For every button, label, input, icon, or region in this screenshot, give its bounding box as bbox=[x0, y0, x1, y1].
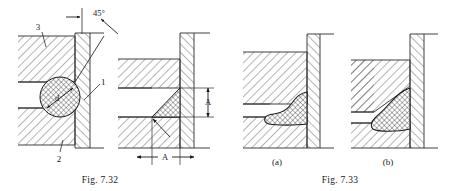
figure-canvas: d 45° 3 1 2 bbox=[0, 0, 450, 191]
label-dimension-A-horizontal-text: A bbox=[162, 152, 169, 162]
fig-7-33-panel-a bbox=[243, 34, 334, 148]
fig-7-33-panel-b bbox=[351, 34, 438, 148]
sublabel-fig-7-33-a: (a) bbox=[272, 157, 282, 167]
label-angle-45: 45° bbox=[93, 8, 105, 18]
label-part-1: 1 bbox=[101, 77, 106, 87]
mating-plate-a bbox=[307, 34, 334, 148]
upper-body-section-2 bbox=[118, 59, 180, 88]
sealing-ring-section bbox=[40, 77, 80, 117]
fig-7-32-panel-ring: d 45° 3 1 2 bbox=[18, 8, 118, 164]
label-part-2: 2 bbox=[57, 154, 62, 164]
mating-plate-section-2 bbox=[180, 33, 210, 148]
fig-7-32-panel-triangle: A A A bbox=[118, 33, 214, 165]
technical-figure-sheet: d 45° 3 1 2 bbox=[0, 0, 450, 191]
label-part-3: 3 bbox=[36, 22, 41, 32]
angle-45-callout bbox=[66, 8, 118, 34]
triangular-filler-section bbox=[152, 88, 180, 117]
sublabel-fig-7-33-b: (b) bbox=[383, 157, 394, 167]
caption-fig-7-33: Fig. 7.33 bbox=[322, 175, 359, 185]
lower-body-section-2 bbox=[118, 117, 180, 148]
caption-fig-7-32: Fig. 7.32 bbox=[82, 175, 119, 185]
mating-plate-b bbox=[410, 34, 438, 148]
label-dimension-A-vertical: A bbox=[205, 97, 212, 107]
upper-body-section bbox=[18, 36, 75, 82]
